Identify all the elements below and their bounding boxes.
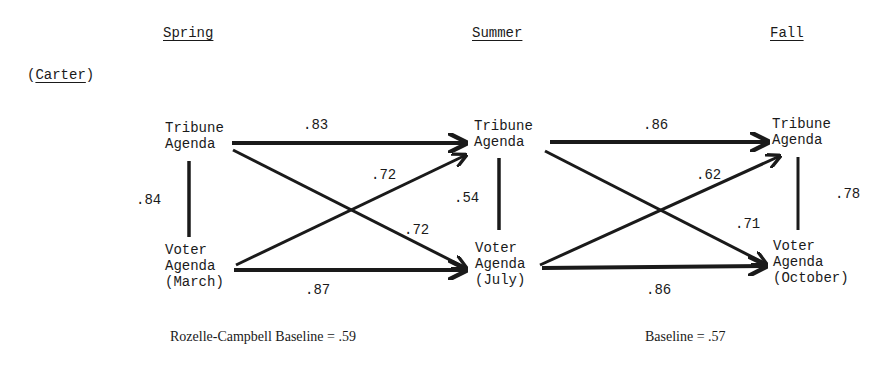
- corr-summer-voter-fall-tribune: .62: [696, 167, 721, 183]
- header-fall: Fall: [770, 25, 804, 41]
- node-label: Agenda: [773, 254, 849, 270]
- arrow-summer-voter-to-fall-tribune: [540, 156, 780, 265]
- node-label: Tribune: [474, 118, 533, 134]
- corr-spring-tribune-summer-voter: .72: [404, 222, 429, 238]
- node-label: Tribune: [772, 116, 831, 132]
- corr-spring-tribune-summer-tribune: .83: [303, 117, 328, 133]
- baseline-right: Baseline = .57: [645, 329, 726, 345]
- node-spring-tribune: Tribune Agenda: [165, 120, 224, 152]
- node-fall-voter: Voter Agenda (October): [773, 238, 849, 286]
- corr-fall-sync: .78: [835, 186, 860, 202]
- corr-summer-tribune-fall-voter: .71: [735, 216, 760, 232]
- node-label: (March): [165, 274, 224, 290]
- node-label: Voter: [475, 240, 525, 256]
- node-fall-tribune: Tribune Agenda: [772, 116, 831, 148]
- node-label: Agenda: [475, 256, 525, 272]
- corr-summer-voter-fall-voter: .86: [646, 282, 671, 298]
- node-label: (October): [773, 270, 849, 286]
- corr-summer-tribune-fall-tribune: .86: [643, 117, 668, 133]
- node-label: Voter: [165, 242, 224, 258]
- arrow-spring-voter-to-summer-tribune: [236, 155, 466, 265]
- node-label: Agenda: [165, 136, 224, 152]
- node-label: Agenda: [772, 132, 831, 148]
- node-spring-voter: Voter Agenda (March): [165, 242, 224, 290]
- arrow-summer-voter-to-fall-voter: [542, 266, 766, 268]
- node-label: Agenda: [474, 134, 533, 150]
- corr-spring-voter-summer-voter: .87: [305, 282, 330, 298]
- corr-spring-voter-summer-tribune: .72: [371, 167, 396, 183]
- baseline-left: Rozelle-Campbell Baseline = .59: [170, 329, 356, 345]
- candidate-name: Carter: [35, 67, 85, 83]
- node-summer-voter: Voter Agenda (July): [475, 240, 525, 288]
- header-spring: Spring: [163, 25, 213, 41]
- node-summer-tribune: Tribune Agenda: [474, 118, 533, 150]
- node-label: Agenda: [165, 258, 224, 274]
- corr-summer-sync: .54: [454, 190, 479, 206]
- header-summer: Summer: [472, 25, 522, 41]
- corr-spring-sync: .84: [136, 192, 161, 208]
- node-label: Voter: [773, 238, 849, 254]
- candidate-label: (Carter): [27, 67, 94, 83]
- node-label: (July): [475, 272, 525, 288]
- cross-lagged-diagram: [0, 0, 885, 378]
- node-label: Tribune: [165, 120, 224, 136]
